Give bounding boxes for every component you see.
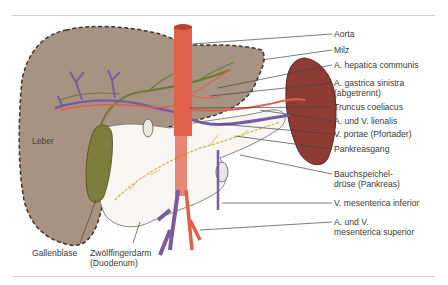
label-v-mesenterica-inferior: V. mesenterica inferior bbox=[334, 198, 419, 208]
label-gallenblase: Gallenblase bbox=[32, 248, 77, 258]
label-v-portae: V. portae (Pfortader) bbox=[334, 129, 412, 139]
label-pankreasgang: Pankreasgang bbox=[334, 144, 389, 154]
label-bauchspeicheldruese: Bauchspeichel- drüse (Pankreas) bbox=[334, 169, 400, 189]
label-leber: Leber bbox=[32, 136, 54, 146]
label-aorta: Aorta bbox=[334, 29, 355, 39]
anatomy-illustration bbox=[0, 0, 448, 285]
label-a-v-mesenterica-superior: A. und V. mesenterica superior bbox=[334, 217, 414, 237]
label-truncus-coeliacus: Truncus coeliacus bbox=[334, 102, 403, 112]
label-milz: Milz bbox=[334, 45, 349, 55]
label-zwoelffingerdarm: Zwölffingerdarm (Duodenum) bbox=[90, 248, 151, 268]
duodenum-cut-upper bbox=[143, 119, 153, 137]
label-a-hepatica-communis: A. hepatica communis bbox=[334, 60, 419, 70]
label-a-gastrica-sinistra: A. gastrica sinistra (abgetrennt) bbox=[334, 78, 404, 98]
label-a-v-lienalis: A. und V. lienalis bbox=[334, 116, 397, 126]
anatomy-figure: Leber Aorta Milz A. hepatica communis A.… bbox=[0, 0, 448, 285]
aorta-shape bbox=[174, 26, 192, 136]
